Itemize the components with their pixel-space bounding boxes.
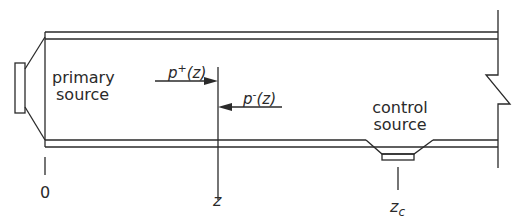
p-minus-arrowhead-icon <box>218 103 232 111</box>
primary-source-cone-lower <box>25 107 45 140</box>
p-plus-label: p+(z) <box>168 60 206 82</box>
z-label: z <box>213 192 221 209</box>
duct-right-break <box>486 10 510 168</box>
duct-diagram <box>0 0 515 223</box>
primary-source-cone <box>25 37 45 69</box>
zc-label: zc <box>390 198 405 221</box>
primary-source-label-line1: primary <box>52 69 115 86</box>
primary-source-label-line2: source <box>56 86 115 103</box>
control-source-label: control source <box>365 99 435 133</box>
control-source-speaker-icon <box>382 154 414 160</box>
primary-source-speaker-icon <box>15 63 25 113</box>
p-minus-label: p-(z) <box>243 86 276 108</box>
control-source-label-line2: source <box>365 116 435 133</box>
origin-label: 0 <box>40 184 50 201</box>
control-source-label-line1: control <box>365 99 435 116</box>
primary-source-label: primary source <box>52 69 115 103</box>
